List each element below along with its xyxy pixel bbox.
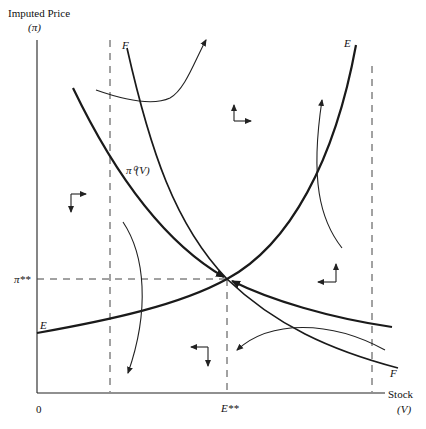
y-axis-label: Imputed Price — [8, 7, 70, 19]
curve-E — [37, 45, 356, 333]
trajectory-right-upper — [317, 100, 342, 248]
curve-F-start-label: F — [121, 39, 129, 51]
phase-diagram: Imputed Price (π) Stock (V) 0 E** π** E … — [0, 0, 426, 429]
trajectory-right-lower — [237, 328, 385, 351]
trajectory-top — [96, 40, 206, 102]
x-axis-label: Stock — [388, 388, 414, 400]
trajectory-left-lower — [123, 222, 142, 373]
curve-E-start-label: E — [39, 319, 47, 331]
direction-arrow-lower-right — [318, 264, 336, 282]
saddle-path-label: π⁰(V) — [126, 164, 150, 177]
equilibrium-stock-label: E** — [220, 402, 239, 414]
y-axis-symbol: (π) — [28, 21, 41, 34]
direction-arrow-upper-left — [71, 194, 86, 212]
x-axis-symbol: (V) — [397, 403, 411, 416]
curve-F-end-label: F — [389, 367, 397, 379]
direction-arrow-lower-left — [191, 347, 208, 366]
curve-E-end-label: E — [343, 37, 351, 49]
direction-arrow-upper-right — [234, 105, 251, 121]
origin-label: 0 — [36, 403, 42, 415]
equilibrium-price-label: π** — [14, 273, 31, 285]
